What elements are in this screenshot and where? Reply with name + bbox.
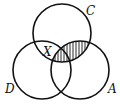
label-a: A	[107, 82, 117, 96]
circle-d	[13, 41, 71, 99]
label-d: D	[4, 82, 15, 96]
label-c: C	[86, 4, 95, 18]
venn-diagram: C D A X	[0, 0, 120, 106]
label-x: X	[42, 45, 52, 59]
